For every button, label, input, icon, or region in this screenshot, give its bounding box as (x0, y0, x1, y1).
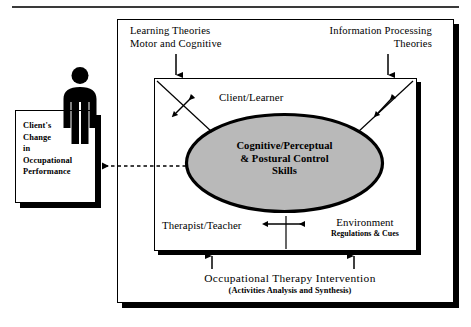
learning-theories-label: Learning Theories Motor and Cognitive (130, 24, 290, 51)
diagram-canvas: Cognitive/Perceptual & Postural Control … (0, 0, 471, 327)
client-learner-label: Client/Learner (219, 91, 283, 103)
client-person-icon (57, 66, 103, 144)
environment-sublabel: Regulations & Cues (312, 229, 418, 238)
central-oval-label: Cognitive/Perceptual & Postural Control … (184, 140, 385, 178)
page-rule-divider (12, 6, 459, 8)
ot-intervention-label: Occupational Therapy Intervention (150, 272, 430, 284)
environment-label: Environment (315, 216, 415, 228)
person-glyph (57, 66, 103, 144)
ot-intervention-sublabel: (Activities Analysis and Synthesis) (150, 286, 430, 295)
information-processing-label: Information Processing Theories (280, 24, 432, 51)
therapist-teacher-label: Therapist/Teacher (162, 219, 241, 231)
